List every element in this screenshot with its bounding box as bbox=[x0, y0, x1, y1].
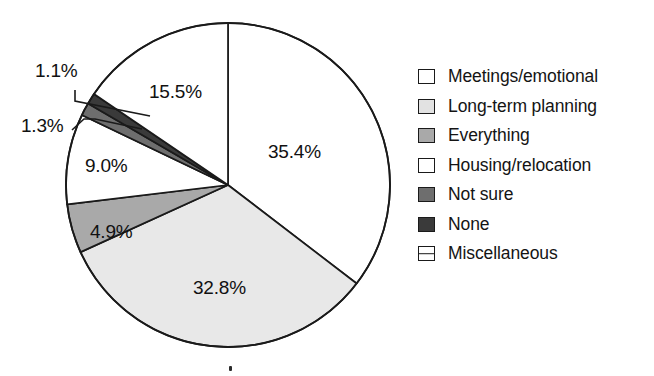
legend-swatch-hline bbox=[419, 253, 434, 255]
legend-item-label: Miscellaneous bbox=[448, 243, 558, 264]
legend-swatch-icon bbox=[418, 99, 435, 114]
legend-item-label: Meetings/emotional bbox=[448, 66, 598, 87]
legend-swatch-icon bbox=[418, 128, 435, 143]
legend-item-label: Not sure bbox=[448, 184, 513, 205]
legend-item-label: Everything bbox=[448, 125, 530, 146]
legend-item-everything[interactable]: Everything bbox=[418, 121, 646, 151]
legend-swatch-icon bbox=[418, 158, 435, 173]
legend-item-label: Long-term planning bbox=[448, 96, 597, 117]
slice-value-label-long-term: 32.8% bbox=[193, 277, 246, 299]
slice-value-label-not-sure: 1.3% bbox=[21, 115, 64, 137]
legend-item-housing-relocation[interactable]: Housing/relocation bbox=[418, 151, 646, 181]
slice-value-label-none: 1.1% bbox=[35, 60, 78, 82]
legend-swatch-icon bbox=[418, 69, 435, 84]
artifact-speck bbox=[229, 366, 232, 371]
legend-item-label: None bbox=[448, 214, 489, 235]
legend-swatch-icon bbox=[418, 246, 435, 261]
slice-value-label-everything: 4.9% bbox=[90, 221, 133, 243]
legend-item-miscellaneous[interactable]: Miscellaneous bbox=[418, 239, 646, 269]
legend-item-none[interactable]: None bbox=[418, 210, 646, 240]
legend-swatch-icon bbox=[418, 217, 435, 232]
chart-legend: Meetings/emotionalLong-term planningEver… bbox=[418, 62, 646, 269]
slice-value-label-housing: 9.0% bbox=[85, 155, 128, 177]
legend-item-long-term-planning[interactable]: Long-term planning bbox=[418, 92, 646, 122]
legend-item-meetings-emotional[interactable]: Meetings/emotional bbox=[418, 62, 646, 92]
slice-value-label-meetings: 35.4% bbox=[268, 141, 321, 163]
legend-swatch-icon bbox=[418, 187, 435, 202]
legend-item-label: Housing/relocation bbox=[448, 155, 591, 176]
legend-item-not-sure[interactable]: Not sure bbox=[418, 180, 646, 210]
slice-value-label-miscellaneous: 15.5% bbox=[149, 81, 202, 103]
pie-chart-figure: 35.4% 32.8% 4.9% 9.0% 1.3% 1.1% 15.5% Me… bbox=[0, 0, 654, 376]
